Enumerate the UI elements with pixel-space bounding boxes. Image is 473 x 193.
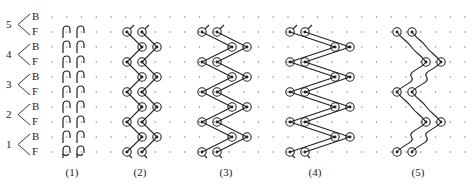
pattern-4-zigzag [286,25,354,158]
caption-3: (3) [220,166,233,178]
course-number: 2 [6,109,12,120]
front-bed-label: F [32,56,38,67]
course-number: 4 [6,49,12,60]
caption-5: (5) [412,166,425,178]
front-bed-label: F [32,26,38,37]
caption-2: (2) [134,166,147,178]
caption-1: (1) [66,166,79,178]
back-bed-label: B [32,11,39,22]
front-bed-label: F [32,116,38,127]
back-bed-label: B [32,131,39,142]
back-bed-label: B [32,101,39,112]
front-bed-label: F [32,146,38,157]
course-number: 5 [6,19,12,30]
course-number: 1 [6,139,12,150]
pattern-5-wavy [393,28,445,156]
bracket-icons [18,14,30,155]
stitch-diagram [0,0,473,193]
front-bed-label: F [32,86,38,97]
back-bed-label: B [32,71,39,82]
course-number: 3 [6,79,12,90]
back-bed-label: B [32,41,39,52]
caption-4: (4) [309,166,322,178]
pattern-3-zigzag [198,25,251,158]
needle-grid-dots [51,16,465,152]
